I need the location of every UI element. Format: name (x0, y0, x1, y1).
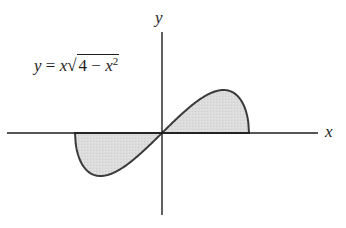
x-axis-label: x (325, 123, 333, 140)
equation-lhs: y (34, 56, 42, 75)
radicand-exponent: 2 (113, 55, 119, 67)
radical-sign-icon: √ (67, 56, 76, 75)
equation-equals: = (46, 56, 56, 75)
function-graph-figure: y x y = x√4 − x2 (0, 0, 346, 228)
function-equation: y = x√4 − x2 (34, 54, 119, 74)
left-shaded-region (75, 133, 162, 176)
radicand-constant: 4 (79, 56, 88, 75)
radicand-minus: − (91, 56, 101, 75)
right-shaded-region (162, 90, 249, 133)
radicand-variable: x (105, 56, 113, 75)
y-axis-label: y (155, 9, 163, 26)
plot-canvas (0, 0, 346, 228)
radicand: 4 − x2 (77, 54, 120, 74)
